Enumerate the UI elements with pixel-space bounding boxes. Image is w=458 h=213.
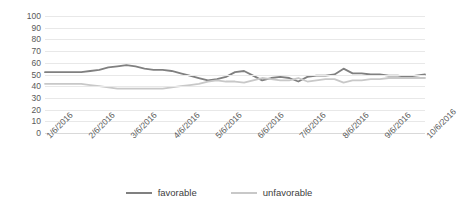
- y-axis-tick-label: 60: [1, 59, 41, 68]
- gridline: [45, 75, 425, 76]
- legend-label: favorable: [158, 188, 197, 198]
- y-axis-tick-label: 40: [1, 82, 41, 91]
- gridline: [45, 63, 425, 64]
- y-axis: 1009080706050403020100: [0, 16, 41, 133]
- x-axis-tick-label: 10/6/2016: [425, 107, 458, 140]
- legend-item-unfavorable[interactable]: unfavorable: [231, 188, 313, 198]
- y-axis-tick-label: 70: [1, 47, 41, 56]
- gridline: [45, 39, 425, 40]
- legend-label: unfavorable: [263, 188, 313, 198]
- y-axis-tick-label: 90: [1, 24, 41, 33]
- y-axis-tick-label: 80: [1, 35, 41, 44]
- chart-legend: favorableunfavorable: [0, 188, 438, 198]
- y-axis-tick-label: 50: [1, 71, 41, 80]
- y-axis-tick-label: 100: [1, 12, 41, 21]
- legend-item-favorable[interactable]: favorable: [126, 188, 197, 198]
- gridline: [45, 98, 425, 99]
- legend-swatch-icon: [126, 192, 152, 195]
- x-axis: 1/6/20162/6/20163/6/20164/6/20165/6/2016…: [45, 134, 425, 179]
- y-axis-tick-label: 30: [1, 94, 41, 103]
- gridline: [45, 86, 425, 87]
- y-axis-tick-label: 0: [1, 129, 41, 138]
- y-axis-tick-label: 10: [1, 117, 41, 126]
- legend-swatch-icon: [231, 192, 257, 195]
- y-axis-tick-label: 20: [1, 106, 41, 115]
- gridline: [45, 16, 425, 17]
- gridline: [45, 28, 425, 29]
- gridline: [45, 51, 425, 52]
